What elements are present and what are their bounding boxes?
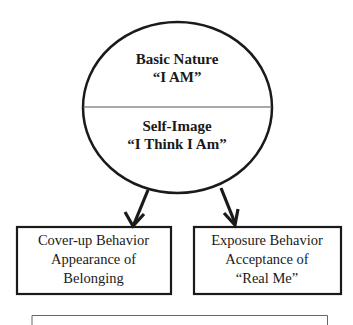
exposure-behavior-line1: Exposure Behavior (195, 231, 339, 250)
basic-nature-title: Basic Nature (82, 50, 272, 68)
arrow-to-cover-up (125, 190, 148, 226)
self-image-label: Self-Image “I Think I Am” (82, 117, 272, 153)
cover-up-behavior-text: Cover-up Behavior Appearance of Belongin… (18, 231, 169, 288)
exposure-behavior-line3: “Real Me” (195, 269, 339, 288)
arrow-to-exposure (221, 188, 238, 225)
cover-up-behavior-line1: Cover-up Behavior (18, 231, 169, 250)
exposure-behavior-text: Exposure Behavior Acceptance of “Real Me… (195, 231, 339, 288)
bottom-box-partial (32, 316, 328, 325)
cover-up-behavior-line3: Belonging (18, 269, 169, 288)
self-image-title: Self-Image (82, 117, 272, 135)
basic-nature-label: Basic Nature “I AM” (82, 50, 272, 86)
i-think-i-am-quote: “I Think I Am” (82, 135, 272, 153)
exposure-behavior-line2: Acceptance of (195, 250, 339, 269)
cover-up-behavior-line2: Appearance of (18, 250, 169, 269)
i-am-quote: “I AM” (82, 68, 272, 86)
